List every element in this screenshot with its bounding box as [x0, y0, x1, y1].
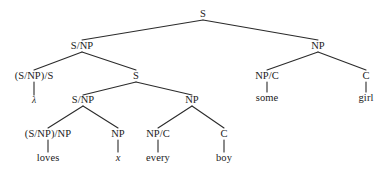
tree-leaf-every: every — [146, 153, 170, 164]
tree-leaf-x: x — [116, 153, 121, 164]
tree-edge-l4_snp-to-l5_np — [83, 106, 118, 128]
tree-edge-l4_np-to-l5_np_c — [158, 106, 192, 128]
tree-node-s-np-over-s: (S/NP)/S — [15, 71, 54, 82]
tree-node-root-s: S — [200, 9, 206, 20]
syntax-tree-figure: S S/NP NP (S/NP)/S S NP/C C λ S/NP NP so… — [0, 0, 386, 184]
tree-edge-l2_np-to-l3_np_c — [267, 52, 318, 70]
tree-leaf-girl: girl — [359, 93, 374, 104]
tree-edge-l2_snp-to-l3_snp_s — [34, 52, 82, 70]
tree-node-np-trace: NP — [111, 129, 125, 140]
tree-node-s-np-left: S/NP — [71, 41, 94, 52]
tree-node-np-right: NP — [311, 41, 325, 52]
tree-node-s-np-over-np: (S/NP)/NP — [25, 129, 71, 140]
tree-node-s-np-inner: S/NP — [72, 95, 95, 106]
tree-edge-l3_s-to-l4_np — [136, 82, 192, 95]
tree-edge-root_s-to-l2_snp — [82, 20, 203, 40]
tree-node-s-middle: S — [133, 71, 139, 82]
tree-node-np-over-c-inner: NP/C — [146, 129, 170, 140]
tree-edge-l2_np-to-l3_c — [318, 52, 366, 70]
tree-leaf-some: some — [256, 93, 279, 104]
tree-leaf-lambda: λ — [32, 96, 36, 106]
tree-leaf-boy: boy — [216, 153, 232, 164]
tree-leaf-loves: loves — [37, 153, 60, 164]
tree-node-c-inner: C — [220, 129, 227, 140]
tree-node-np-over-c-right: NP/C — [255, 71, 279, 82]
tree-edge-l4_snp-to-l5_snp_np — [48, 106, 83, 128]
tree-edge-root_s-to-l2_np — [203, 20, 318, 40]
tree-edge-l2_snp-to-l3_s — [82, 52, 136, 70]
tree-node-np-inner: NP — [185, 95, 199, 106]
tree-node-c-right: C — [362, 71, 369, 82]
tree-edge-l4_np-to-l5_c — [192, 106, 224, 128]
